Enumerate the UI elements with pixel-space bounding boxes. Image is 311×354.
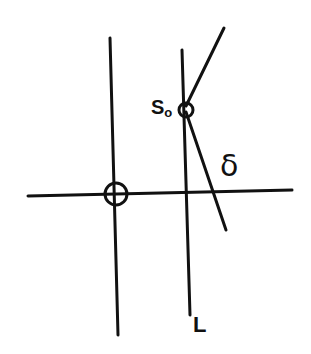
horizontal-axis: [28, 190, 292, 196]
s0-label-main: S: [151, 96, 164, 118]
s0-label-subscript: o: [164, 105, 172, 120]
upper-ray: [186, 28, 224, 106]
diagram-svg: [0, 0, 311, 354]
diagram-canvas: So δ L: [0, 0, 311, 354]
s0-label: So: [151, 96, 172, 120]
delta-label: δ: [220, 148, 238, 183]
L-label: L: [193, 312, 206, 338]
line-L: [182, 50, 190, 315]
vertical-axis-left: [110, 38, 118, 335]
